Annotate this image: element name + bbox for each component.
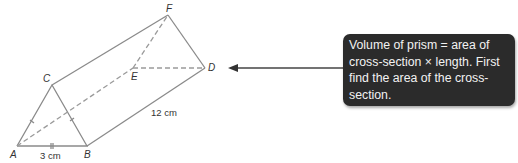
front-triangle [17,85,87,146]
edge-ef-hidden [133,15,168,68]
dimension-length: 12 cm [151,107,177,118]
edge-ae-hidden [17,68,133,146]
vertex-f: F [166,3,172,14]
callout-box: Volume of prism = area of cross-section … [343,34,515,106]
vertex-b: B [84,149,91,160]
vertex-d: D [208,62,215,73]
edge-cf [52,15,168,85]
edge-bd [87,68,205,146]
vertex-c: C [43,73,50,84]
dimension-base: 3 cm [40,150,61,161]
vertex-a: A [10,149,17,160]
arrow-head-icon [228,64,238,72]
vertex-e: E [131,71,138,82]
edge-fd [168,15,205,68]
prism-diagram: A B C D E F 3 cm 12 cm Volume of prism =… [0,0,518,163]
